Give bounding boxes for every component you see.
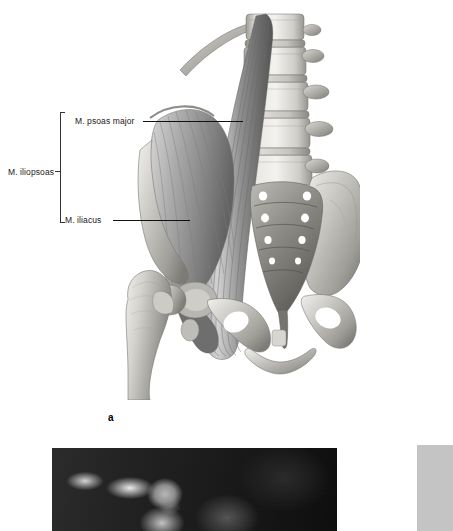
bracket-middle-tick xyxy=(55,171,60,172)
figure-page: M. psoas major M. iliacus M. iliopsoas a xyxy=(0,0,453,531)
athlete-photograph xyxy=(52,448,337,531)
label-psoas-major: M. psoas major xyxy=(75,117,135,126)
bracket-top-tick xyxy=(60,112,65,113)
leader-line-iliacus xyxy=(113,220,190,221)
figure-letter-a: a xyxy=(108,412,114,423)
photo-grain-overlay xyxy=(52,448,337,531)
label-iliopsoas: M. iliopsoas xyxy=(8,168,54,177)
leader-line-psoas-major xyxy=(143,121,243,122)
side-margin-block xyxy=(417,445,453,531)
anatomy-illustration xyxy=(100,0,360,400)
bracket-vertical-line xyxy=(60,112,61,223)
label-iliacus: M. iliacus xyxy=(65,216,101,225)
